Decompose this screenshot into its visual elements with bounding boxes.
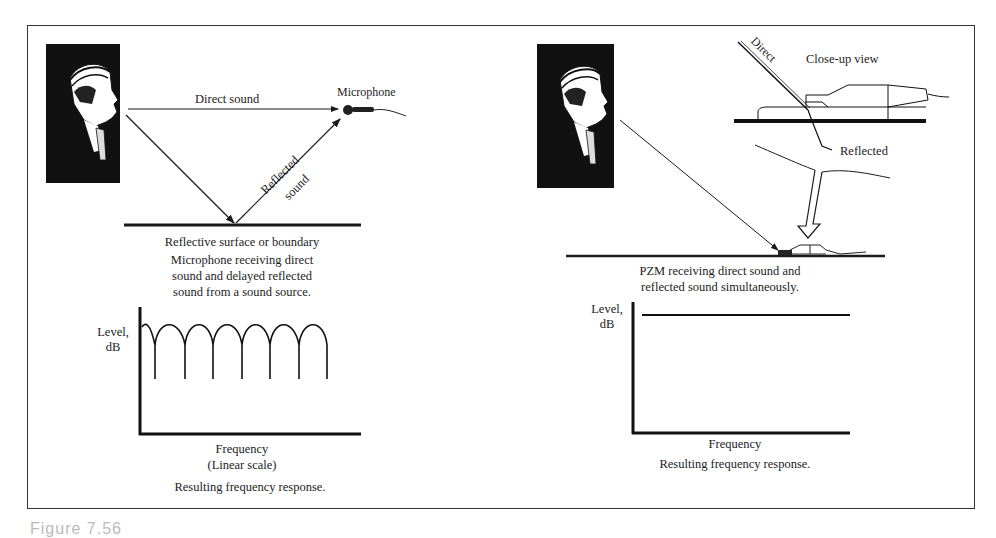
surface-label: Reflective surface or boundary — [152, 235, 332, 250]
microphone-label: Microphone — [337, 85, 396, 100]
microphone-icon — [343, 105, 406, 116]
right-description-line1: PZM receiving direct sound and — [620, 264, 820, 279]
direct-sound-label: Direct sound — [195, 92, 259, 107]
reflected-closeup-label: Reflected — [840, 144, 888, 159]
flat-response-chart — [632, 302, 850, 434]
close-up-view-label: Close-up view — [806, 52, 879, 67]
left-ylabel-line1: Level, — [90, 325, 136, 340]
comb-filter-chart — [139, 307, 361, 435]
figure-caption: Figure 7.56 — [30, 520, 122, 538]
speaker-figure-right — [537, 44, 614, 188]
pzm-direct-arrow — [620, 120, 778, 250]
left-xlabel-line2: (Linear scale) — [192, 458, 292, 473]
right-description-line2: reflected sound simultaneously. — [620, 280, 820, 295]
left-description-line1: Microphone receiving direct — [152, 253, 332, 268]
speaker-figure-left — [46, 44, 120, 183]
left-ylabel-line2: dB — [90, 340, 136, 355]
right-ylabel-line2: dB — [585, 317, 629, 332]
zoom-callout-arrow — [798, 170, 822, 238]
left-xlabel-line1: Frequency — [192, 442, 292, 457]
left-description-line2: sound and delayed reflected — [152, 269, 332, 284]
right-ylabel-line1: Level, — [585, 302, 629, 317]
right-chart-caption: Resulting frequency response. — [640, 457, 830, 472]
left-chart-caption: Resulting frequency response. — [155, 480, 345, 495]
incident-sound-arrow — [126, 115, 234, 223]
left-description-line3: sound from a sound source. — [152, 285, 332, 300]
right-xlabel: Frequency — [685, 437, 785, 452]
pzm-microphone-small — [778, 245, 866, 255]
